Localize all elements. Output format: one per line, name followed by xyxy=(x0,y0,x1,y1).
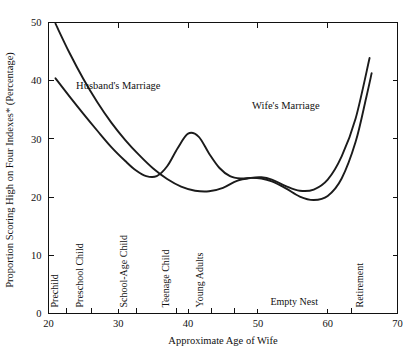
axis-frame xyxy=(49,23,398,314)
series-curve-wifes-marriage xyxy=(55,73,371,200)
y-axis-ticks xyxy=(49,23,54,314)
life-cycle-stage-labels: PrechildPreschool ChildSchool-Age ChildT… xyxy=(49,235,365,308)
series-label-wifes-marriage: Wife's Marriage xyxy=(252,100,320,111)
right-axis-ticks xyxy=(393,23,398,256)
x-axis-ticks xyxy=(49,309,398,314)
series-label-husbands-marriage: Husband's Marriage xyxy=(76,80,161,91)
chart-axes xyxy=(49,23,398,314)
stage-label-young-adults: Young Adults xyxy=(194,253,205,308)
marriage-satisfaction-line-chart: 01020304050 203040506070 Proportion Scor… xyxy=(0,0,418,352)
stage-label-prechild: Prechild xyxy=(49,274,60,307)
x-axis-tick-labels: 203040506070 xyxy=(43,318,403,329)
series-inline-labels: Husband's MarriageWife's Marriage xyxy=(76,80,320,110)
stage-label-retirement: Retirement xyxy=(354,263,365,308)
top-axis-ticks xyxy=(118,23,327,28)
chart-figure: 01020304050 203040506070 Proportion Scor… xyxy=(0,0,418,352)
x-axis-title: Approximate Age of Wife xyxy=(168,335,278,346)
series-curve-husbands-marriage xyxy=(55,24,369,192)
stage-label-preschool-child: Preschool Child xyxy=(74,243,85,307)
x-tick-label-30: 30 xyxy=(113,318,124,329)
y-tick-label-0: 0 xyxy=(36,308,41,319)
y-axis-tick-labels: 01020304050 xyxy=(31,17,42,319)
y-axis-title: Proportion Scoring High on Four Indexes*… xyxy=(4,52,16,288)
y-tick-label-40: 40 xyxy=(31,75,42,86)
y-tick-label-30: 30 xyxy=(31,134,42,145)
y-tick-label-10: 10 xyxy=(31,250,42,261)
stage-boundary-ticks xyxy=(67,308,352,314)
stage-label-teenage-child: Teenage Child xyxy=(160,250,171,308)
y-tick-label-20: 20 xyxy=(31,192,42,203)
x-tick-label-40: 40 xyxy=(183,318,194,329)
x-tick-label-60: 60 xyxy=(322,318,333,329)
x-tick-label-20: 20 xyxy=(43,318,54,329)
x-tick-label-70: 70 xyxy=(392,318,403,329)
data-series-curves xyxy=(55,24,371,200)
y-tick-label-50: 50 xyxy=(31,17,42,28)
x-tick-label-50: 50 xyxy=(253,318,264,329)
stage-label-school-age-child: School-Age Child xyxy=(118,235,129,308)
stage-label-empty-nest: Empty Nest xyxy=(270,296,318,307)
